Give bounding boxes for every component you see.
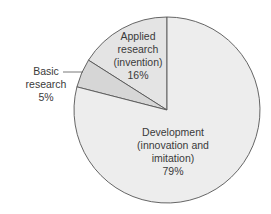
label-basic-research: Basic research 5%	[22, 65, 70, 104]
label-value: 16%	[108, 69, 168, 82]
label-text: research	[22, 78, 70, 91]
label-text: research	[108, 43, 168, 56]
label-text: (invention)	[108, 56, 168, 69]
label-development: Development (innovation and imitation) 7…	[130, 126, 216, 178]
label-text: (innovation and	[130, 139, 216, 152]
label-text: Applied	[108, 30, 168, 43]
label-text: imitation)	[130, 152, 216, 165]
label-applied-research: Applied research (invention) 16%	[108, 30, 168, 82]
label-value: 79%	[130, 165, 216, 178]
label-value: 5%	[22, 91, 70, 104]
label-text: Basic	[22, 65, 70, 78]
label-text: Development	[130, 126, 216, 139]
